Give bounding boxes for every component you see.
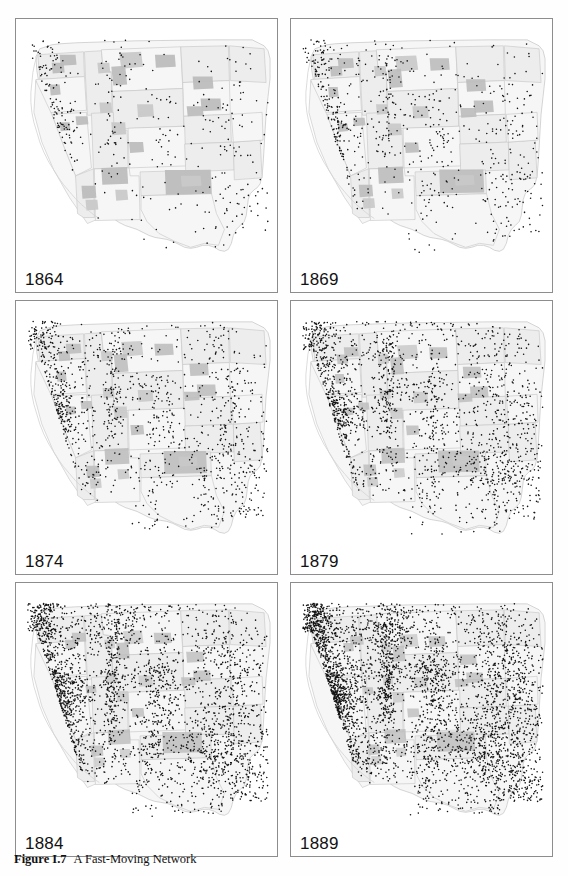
reservation-standing-rock	[466, 79, 486, 91]
reservation-pine-ridge	[184, 392, 200, 401]
reservation-pine-ridge	[187, 106, 204, 116]
state-minnesota	[229, 328, 266, 365]
reservation-wind-river	[137, 104, 154, 117]
reservation-rosebud	[197, 384, 216, 396]
state-texas	[141, 194, 224, 248]
reservation-navajo	[381, 448, 405, 464]
reservation-warm-springs	[328, 87, 339, 98]
reservation-pine-ridge	[460, 108, 476, 118]
state-texas	[141, 476, 224, 530]
reservation-rosebud	[201, 98, 222, 111]
reservation-colville	[60, 55, 77, 66]
reservation-san-carlos	[363, 198, 375, 209]
reservation-flathead	[114, 354, 129, 372]
reservation-pine-ridge	[181, 677, 196, 686]
reservation-flathead	[392, 645, 405, 661]
reservation-navajo	[101, 167, 128, 185]
reservation-crow	[430, 58, 450, 70]
state-missouri	[508, 140, 537, 180]
reservation-ute	[406, 426, 419, 436]
state-nebraska	[184, 396, 232, 426]
reservation-cherokee-outlet	[178, 456, 197, 466]
year-label-1879: 1879	[300, 553, 339, 570]
reservation-rosebud	[466, 672, 483, 683]
state-minnesota	[504, 46, 541, 83]
reservation-nez-perce	[374, 66, 386, 77]
state-north-dakota	[181, 328, 230, 365]
reservation-mescalero	[394, 468, 406, 478]
year-label-1884: 1884	[25, 835, 64, 852]
reservation-mescalero	[396, 748, 407, 757]
state-wyoming	[387, 370, 458, 411]
reservation-cherokee-outlet	[181, 176, 202, 187]
reservation-mescalero	[391, 189, 403, 200]
state-kansas	[185, 142, 235, 172]
map-panel-1864: 1864	[15, 18, 278, 293]
reservation-wind-river	[412, 106, 428, 118]
reservation-indian-terr-big	[437, 731, 475, 751]
reservation-fort-hall	[376, 104, 388, 115]
state-iowa	[506, 394, 538, 424]
reservation-apache	[86, 466, 100, 478]
figure-root: 186418691874187918841889 Figure I.7A Fas…	[0, 0, 568, 876]
map-panel-1889: 1889	[290, 582, 553, 857]
reservation-san-carlos	[90, 479, 102, 489]
reservation-flathead	[388, 69, 403, 88]
reservation-nez-perce	[97, 63, 110, 74]
reservation-flathead	[390, 357, 404, 375]
reservation-apache	[363, 465, 376, 477]
figure-caption-title: A Fast-Moving Network	[74, 852, 197, 866]
reservation-apache	[359, 185, 373, 197]
reservation-ute	[129, 142, 144, 153]
reservation-apache	[91, 746, 104, 757]
map-panel-1869: 1869	[290, 18, 553, 293]
state-missouri	[233, 140, 262, 180]
state-minnesota	[504, 610, 541, 647]
reservation-apache	[81, 186, 96, 199]
figure-caption-number: Figure I.7	[14, 852, 67, 866]
reservation-navajo	[384, 729, 406, 744]
reservation-colville	[350, 636, 364, 645]
reservation-mescalero	[115, 190, 128, 201]
reservation-standing-rock	[189, 364, 208, 376]
state-nebraska	[459, 114, 507, 144]
state-minnesota	[504, 328, 541, 365]
reservation-duck-valley	[358, 402, 370, 410]
reservation-flathead	[111, 66, 127, 86]
state-iowa	[231, 676, 263, 706]
reservation-colville	[72, 633, 87, 642]
reservation-rosebud	[474, 100, 494, 112]
reservation-cherokee-outlet	[455, 175, 475, 186]
reservation-standing-rock	[463, 367, 482, 379]
state-kansas	[460, 142, 510, 172]
reservation-rosebud	[470, 386, 489, 398]
state-texas	[141, 758, 224, 812]
map-panel-1874: 1874	[15, 300, 278, 575]
reservation-colville	[338, 58, 354, 69]
state-minnesota	[229, 46, 266, 83]
reservation-standing-rock	[460, 654, 477, 665]
reservation-duck-valley	[85, 686, 96, 694]
state-missouri	[508, 422, 537, 462]
state-kansas	[185, 424, 235, 454]
reservation-mescalero	[120, 749, 131, 758]
reservation-uintah	[392, 692, 404, 703]
year-label-1864: 1864	[25, 271, 64, 288]
reservation-colville	[344, 347, 359, 357]
state-north-dakota	[456, 46, 505, 83]
state-iowa	[231, 112, 263, 142]
reservation-wind-river	[138, 390, 154, 402]
reservation-crow	[155, 55, 176, 68]
reservation-nez-perce	[101, 351, 113, 361]
reservation-san-carlos	[85, 200, 98, 211]
reservation-apache	[368, 744, 380, 755]
reservation-crow	[154, 344, 173, 356]
reservation-uintah	[116, 691, 129, 702]
year-label-1889: 1889	[300, 835, 339, 852]
reservation-duck-valley	[76, 116, 89, 125]
year-label-1869: 1869	[300, 271, 339, 288]
reservation-indian-terr-big	[162, 732, 202, 753]
map-panel-grid: 186418691874187918841889	[15, 18, 553, 850]
map-panel-1879: 1879	[290, 300, 553, 575]
state-nebraska	[184, 114, 232, 144]
